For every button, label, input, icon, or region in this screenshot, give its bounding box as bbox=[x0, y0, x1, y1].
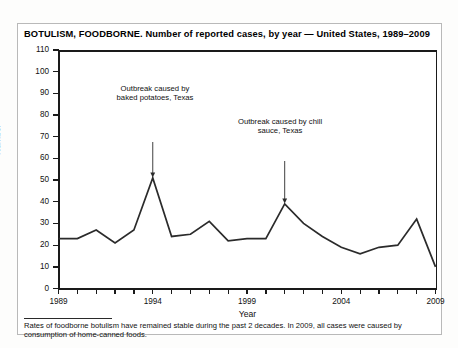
x-tick-label-1994: 1994 bbox=[133, 297, 173, 306]
x-tick-2002 bbox=[303, 289, 304, 294]
x-tick-1994 bbox=[152, 289, 153, 294]
x-tick-label-1989: 1989 bbox=[39, 297, 79, 306]
x-tick-label-2004: 2004 bbox=[321, 297, 361, 306]
y-tick-50 bbox=[53, 179, 59, 180]
y-tick-label-100: 100 bbox=[15, 67, 49, 76]
y-tick-60 bbox=[53, 158, 59, 159]
x-tick-1998 bbox=[228, 289, 229, 294]
y-tick-label-70: 70 bbox=[15, 132, 49, 141]
y-tick-label-20: 20 bbox=[15, 240, 49, 249]
x-tick-1996 bbox=[190, 289, 191, 294]
x-tick-1993 bbox=[133, 289, 134, 294]
x-tick-label-1999: 1999 bbox=[227, 297, 267, 306]
y-tick-label-50: 50 bbox=[15, 175, 49, 184]
x-tick-1995 bbox=[171, 289, 172, 294]
y-axis-title: Number bbox=[0, 124, 2, 155]
y-tick-110 bbox=[53, 49, 59, 50]
y-tick-label-40: 40 bbox=[15, 197, 49, 206]
footnote-text: Rates of foodborne botulism have remaine… bbox=[24, 321, 432, 340]
chart-figure: BOTULISM, FOODBORNE. Number of reported … bbox=[0, 0, 458, 348]
y-tick-70 bbox=[53, 136, 59, 137]
annotation-baked-potatoes: Outbreak caused by baked potatoes, Texas bbox=[112, 84, 198, 103]
chart-title: BOTULISM, FOODBORNE. Number of reported … bbox=[24, 28, 432, 40]
y-tick-90 bbox=[53, 93, 59, 94]
y-tick-label-60: 60 bbox=[15, 153, 49, 162]
y-tick-label-90: 90 bbox=[15, 88, 49, 97]
x-tick-2009 bbox=[435, 289, 436, 294]
x-tick-2005 bbox=[360, 289, 361, 294]
footnote-rule bbox=[24, 318, 112, 319]
y-tick-100 bbox=[53, 71, 59, 72]
annotation-chili-sauce: Outbreak caused by chill sauce, Texas bbox=[237, 117, 323, 136]
x-axis-title: Year bbox=[58, 309, 437, 319]
plot-frame-right bbox=[436, 50, 438, 289]
y-tick-10 bbox=[53, 266, 59, 267]
x-tick-1999 bbox=[246, 289, 247, 294]
y-tick-20 bbox=[53, 245, 59, 246]
x-tick-2007 bbox=[397, 289, 398, 294]
x-tick-1989 bbox=[58, 289, 59, 294]
plot-frame-top bbox=[58, 50, 437, 52]
y-axis-line bbox=[58, 50, 60, 289]
y-tick-label-10: 10 bbox=[15, 262, 49, 271]
x-tick-label-2009: 2009 bbox=[416, 297, 456, 306]
x-tick-2004 bbox=[341, 289, 342, 294]
x-tick-2001 bbox=[284, 289, 285, 294]
y-tick-30 bbox=[53, 223, 59, 224]
y-tick-label-0: 0 bbox=[15, 284, 49, 293]
x-tick-2006 bbox=[378, 289, 379, 294]
y-tick-40 bbox=[53, 201, 59, 202]
y-tick-label-110: 110 bbox=[15, 45, 49, 54]
x-tick-2003 bbox=[322, 289, 323, 294]
x-tick-1992 bbox=[114, 289, 115, 294]
y-tick-80 bbox=[53, 114, 59, 115]
y-tick-label-80: 80 bbox=[15, 110, 49, 119]
x-tick-1997 bbox=[209, 289, 210, 294]
y-tick-label-30: 30 bbox=[15, 218, 49, 227]
x-tick-1990 bbox=[77, 289, 78, 294]
x-tick-1991 bbox=[96, 289, 97, 294]
x-tick-2008 bbox=[416, 289, 417, 294]
x-tick-2000 bbox=[265, 289, 266, 294]
